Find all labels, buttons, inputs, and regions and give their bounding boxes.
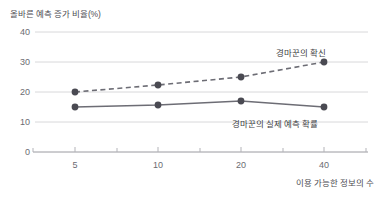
x-axis xyxy=(33,147,368,152)
series-confidence xyxy=(72,59,328,96)
point-accuracy-10 xyxy=(155,102,162,109)
line-confidence xyxy=(75,62,324,92)
point-accuracy-20 xyxy=(238,98,245,105)
point-confidence-40 xyxy=(321,59,328,66)
point-confidence-5 xyxy=(72,89,79,96)
chart-container: 올바른 예측 증가 비율(%) 40 30 20 10 0 xyxy=(0,0,384,200)
x-tick-label-5: 5 xyxy=(60,160,90,170)
x-axis-title: 이용 가능한 정보의 수 xyxy=(296,176,374,188)
point-confidence-20 xyxy=(238,74,245,81)
plot-area xyxy=(0,0,384,200)
series-label-accuracy: 경마꾼의 실제 예측 확률 xyxy=(232,117,318,129)
line-accuracy xyxy=(75,101,324,107)
x-tick-label-40: 40 xyxy=(309,160,339,170)
series-accuracy xyxy=(72,98,328,111)
x-tick-label-20: 20 xyxy=(226,160,256,170)
point-confidence-10 xyxy=(155,82,162,89)
point-accuracy-5 xyxy=(72,104,79,111)
point-accuracy-40 xyxy=(321,104,328,111)
series-label-confidence: 경마꾼의 확신 xyxy=(276,46,326,58)
x-tick-label-10: 10 xyxy=(143,160,173,170)
